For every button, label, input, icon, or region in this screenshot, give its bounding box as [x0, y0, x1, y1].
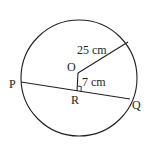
distance-length-label: 7 cm — [82, 75, 106, 89]
point-label-p: P — [9, 77, 16, 91]
perpendicular-or — [77, 73, 78, 91]
point-label-r: R — [71, 93, 79, 107]
center-label-o: O — [67, 60, 76, 74]
radius-length-label: 25 cm — [77, 43, 107, 57]
circle-chord-diagram: 25 cm O 7 cm P R Q — [0, 0, 148, 147]
point-label-q: Q — [132, 98, 141, 112]
circle — [21, 20, 137, 136]
